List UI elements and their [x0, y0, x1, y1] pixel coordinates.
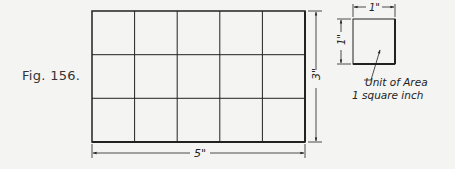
unit-annotation-line1: Unit of Area [365, 76, 428, 88]
width-label: 5" [194, 147, 206, 160]
unit-height-label: 1" [336, 34, 347, 45]
grid-rectangle [92, 11, 305, 142]
unit-annotation-line2: 1 square inch [352, 89, 423, 101]
unit-square [353, 19, 395, 64]
area-diagram: 5" 3" 1" 1" Unit of Area 1 square inch [0, 0, 455, 169]
height-label: 3" [310, 68, 323, 80]
unit-width-label: 1" [369, 2, 380, 13]
